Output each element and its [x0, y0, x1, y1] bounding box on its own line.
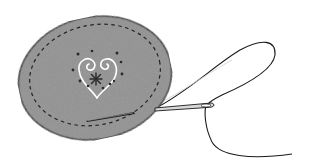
felt-embroidery-illustration: Gray felt oval with dashed running-stitc… [0, 0, 312, 168]
thread [156, 42, 292, 156]
star-stitch [90, 73, 102, 85]
illustration-svg [0, 0, 312, 168]
